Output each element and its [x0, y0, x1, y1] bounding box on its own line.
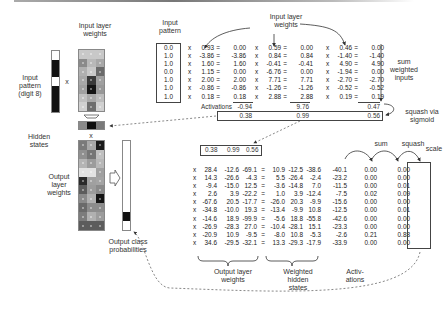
connector-arrows	[0, 0, 447, 315]
